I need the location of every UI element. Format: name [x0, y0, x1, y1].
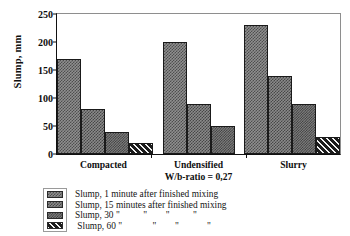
category-label-compacted: Compacted [56, 159, 151, 182]
bar-compacted-series-4 [129, 143, 153, 154]
bar-group-compacted [57, 14, 153, 154]
category-sublabel-wb-ratio: W/b-ratio = 0,27 [151, 171, 246, 183]
bar-group-undensified [153, 14, 244, 154]
category-label-text: Compacted [80, 159, 127, 170]
legend-swatch-box [43, 188, 67, 232]
y-tick-50: 50 [43, 121, 53, 132]
bar-slurry-series-4 [316, 137, 340, 154]
y-tick-250: 250 [38, 9, 53, 20]
bar-compacted-series-2 [81, 109, 105, 154]
y-tick-0: 0 [48, 149, 53, 160]
legend-swatch-series-2 [47, 201, 63, 208]
plot-area: 250 200 150 100 50 0 [56, 13, 341, 155]
bar-groups [57, 14, 340, 154]
category-label-undensified: Undensified W/b-ratio = 0,27 [151, 159, 246, 182]
legend-label-series-1: Slump, 1 minute after finished mixing [75, 189, 227, 200]
legend-swatch-series-4 [47, 222, 63, 229]
bar-compacted-series-3 [105, 132, 129, 154]
legend-labels: Slump, 1 minute after finished mixing Sl… [75, 188, 227, 232]
bar-undensified-series-2 [187, 104, 211, 154]
y-tick-100: 100 [38, 93, 53, 104]
legend-label-series-2: Slump, 15 minutes after finished mixing [75, 200, 227, 211]
bar-undensified-series-1 [163, 42, 187, 154]
legend-swatch-series-1 [47, 191, 63, 198]
category-axis: Compacted Undensified W/b-ratio = 0,27 S… [56, 159, 341, 182]
bar-compacted-series-1 [57, 59, 81, 154]
category-label-text: Undensified [174, 159, 223, 170]
slump-bar-chart: Slump, mm 250 200 150 100 50 0 Compacted… [0, 0, 350, 236]
y-tick-200: 200 [38, 37, 53, 48]
bar-undensified-series-3 [211, 126, 235, 154]
bar-slurry-series-1 [244, 25, 268, 154]
legend-label-series-4: Slump, 60 " " " " [75, 221, 227, 232]
bar-group-slurry [244, 14, 340, 154]
legend-swatch-series-3 [47, 212, 63, 219]
bar-slurry-series-2 [268, 76, 292, 154]
bar-slurry-series-3 [292, 104, 316, 154]
legend: Slump, 1 minute after finished mixing Sl… [43, 188, 227, 232]
y-axis-title: Slump, mm [12, 17, 23, 107]
legend-label-series-3: Slump, 30 " " " " [75, 210, 227, 221]
category-label-text: Slurry [280, 159, 307, 170]
category-label-slurry: Slurry [246, 159, 341, 182]
y-tick-150: 150 [38, 65, 53, 76]
